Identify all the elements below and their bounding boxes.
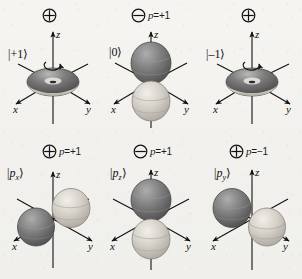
state-ket-label: |pz⟩ [110, 167, 127, 182]
state-ket-label: |–1⟩ [206, 48, 225, 60]
ket-subscript: x [15, 173, 19, 182]
panel-m-minus-1: |–1⟩ z x y [202, 2, 302, 141]
panel-m-zero: p=+1 |0⟩ z x y [101, 2, 201, 141]
state-ket-label: |+1⟩ [8, 48, 28, 60]
orbital-scene-dumbbell-x [0, 140, 100, 279]
symbol-parity-tag: p=−1 [229, 144, 268, 159]
parity-label: p=+1 [148, 10, 170, 21]
circled-minus-icon [133, 144, 148, 159]
axis-label-x: x [211, 241, 216, 252]
axis-label-z: z [255, 167, 259, 178]
panel-p-y: p=−1 |py⟩ z x y [202, 140, 302, 279]
orbital-scene-dumbbell-z [101, 140, 201, 279]
axis-label-x: x [213, 104, 218, 115]
axis-label-y: y [283, 241, 288, 252]
axis-label-y: y [286, 104, 291, 115]
circled-plus-icon [229, 144, 244, 159]
axis-label-y: y [184, 104, 189, 115]
axis-label-x: x [12, 241, 17, 252]
symbol-parity-tag: p=+1 [133, 144, 172, 159]
parity-value: =+1 [64, 146, 81, 157]
parity-value: =+1 [153, 10, 170, 21]
circled-minus-icon [131, 8, 146, 23]
axis-label-z: z [56, 169, 60, 180]
axis-label-z: z [56, 29, 60, 40]
symbol-tag [42, 8, 57, 23]
panel-m-plus-1: |+1⟩ z x y [0, 2, 100, 141]
circled-plus-icon [42, 8, 57, 23]
state-ket-label: |0⟩ [109, 46, 122, 58]
parity-value: =−1 [251, 146, 268, 157]
panel-p-z: p=+1 |pz⟩ z x y [101, 140, 201, 279]
parity-label: p=+1 [150, 146, 172, 157]
orbital-diagram-figure: |+1⟩ z x y [0, 0, 302, 279]
symbol-tag [241, 8, 256, 23]
symbol-parity-tag: p=+1 [42, 144, 81, 159]
ket-subscript: z [118, 173, 121, 182]
parity-label: p=+1 [59, 146, 81, 157]
axis-label-x: x [110, 241, 115, 252]
panel-p-x: p=+1 |px⟩ z x y [0, 140, 100, 279]
symbol-parity-tag: p=+1 [131, 8, 170, 23]
axis-label-y: y [86, 104, 91, 115]
axis-label-z: z [255, 29, 259, 40]
axis-label-z: z [154, 167, 158, 178]
axis-label-z: z [154, 29, 158, 40]
circled-plus-icon [241, 8, 256, 23]
parity-value: =+1 [155, 146, 172, 157]
state-ket-label: |py⟩ [214, 167, 231, 182]
circled-plus-icon [42, 144, 57, 159]
axis-label-x: x [13, 104, 18, 115]
axis-label-y: y [88, 241, 93, 252]
orbital-scene-dumbbell-y [202, 140, 302, 279]
ket-subscript: y [222, 173, 226, 182]
parity-label: p=−1 [246, 146, 268, 157]
axis-label-x: x [111, 104, 116, 115]
state-ket-label: |px⟩ [7, 167, 24, 182]
axis-label-y: y [186, 241, 191, 252]
